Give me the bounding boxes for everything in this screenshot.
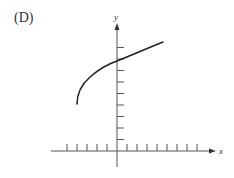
y-axis-label: y xyxy=(113,12,118,22)
graph: x y xyxy=(0,0,234,178)
x-axis-arrow-icon xyxy=(209,149,216,154)
function-curve xyxy=(77,42,163,104)
y-axis-arrow-icon xyxy=(115,23,120,30)
x-axis-label: x xyxy=(218,146,223,156)
x-axis-ticks xyxy=(67,144,197,151)
